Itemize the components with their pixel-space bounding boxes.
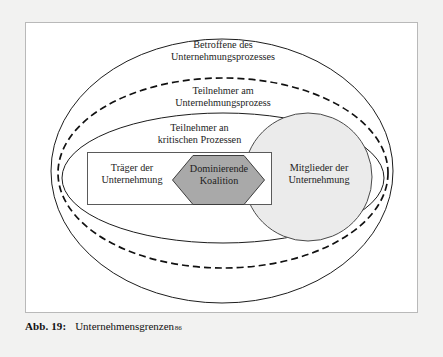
label-line: Unternehmung: [92, 174, 172, 186]
label-line: kritischen Prozessen: [112, 134, 287, 146]
label-line: Unternehmungsprozesses: [133, 51, 313, 63]
label-dominierende-koalition: Dominierende Koalition: [178, 163, 260, 187]
label-line: Unternehmung: [273, 174, 365, 186]
label-line: Dominierende: [178, 163, 260, 175]
figure-root: Betroffene des Unternehmungsprozesses Te…: [0, 0, 443, 357]
label-teilnehmer-an-kritischen-prozessen: Teilnehmer an kritischen Prozessen: [112, 122, 287, 146]
label-line: Teilnehmer am: [133, 85, 313, 97]
label-teilnehmer-am-unternehmungsprozess: Teilnehmer am Unternehmungsprozess: [133, 85, 313, 109]
label-traeger-der-unternehmung: Träger der Unternehmung: [92, 162, 172, 186]
label-line: Unternehmungsprozess: [133, 97, 313, 109]
figure-caption-number: Abb. 19:: [25, 320, 66, 332]
figure-caption: Abb. 19: Unternehmensgrenzen 86: [25, 320, 418, 342]
label-line: Träger der: [92, 162, 172, 174]
label-line: Teilnehmer an: [112, 122, 287, 134]
figure-caption-footnote-marker: 86: [175, 324, 182, 332]
label-mitglieder-der-unternehmung: Mitglieder der Unternehmung: [273, 162, 365, 186]
figure-caption-text: Unternehmensgrenzen: [75, 320, 174, 332]
label-line: Betroffene des: [133, 39, 313, 51]
label-betroffene-des-unternehmungsprozesses: Betroffene des Unternehmungsprozesses: [133, 39, 313, 63]
label-line: Mitglieder der: [273, 162, 365, 174]
label-line: Koalition: [178, 175, 260, 187]
